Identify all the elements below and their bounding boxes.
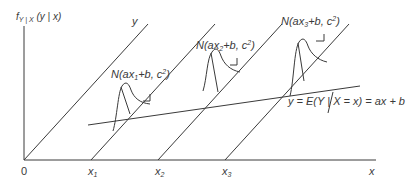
nl2-suffix: ) (251, 39, 255, 51)
regression-label: y = E(Y | X = x) = ax + b (288, 96, 405, 107)
normal-label-3: N(ax3+b, c2) (281, 15, 340, 28)
normal-curve-3 (290, 39, 327, 96)
y-axis-label: fY | X (y | x) (16, 12, 61, 23)
x-tick-3: x3 (222, 166, 231, 178)
diagonal-origin (24, 24, 148, 160)
x-tick-2: x2 (155, 166, 164, 178)
pointer-1 (143, 94, 150, 101)
nl3-prefix: N(ax (281, 15, 304, 27)
normal-label-1: N(ax1+b, c2) (111, 68, 170, 81)
nl2-mid: +b, c (223, 39, 247, 51)
curve1-center (121, 87, 130, 114)
pointer-3 (316, 34, 324, 41)
x-axis-label: x (369, 166, 375, 177)
y-axis-label-args: (y | x) (34, 11, 62, 22)
normal-label-2: N(ax2+b, c2) (196, 39, 255, 52)
normal-curve-1 (113, 83, 150, 131)
x-tick-1: x1 (88, 166, 97, 178)
nl2-prefix: N(ax (196, 39, 219, 51)
regression-diagram (0, 0, 408, 186)
nl1-prefix: N(ax (111, 68, 134, 80)
pointer-2 (230, 58, 237, 65)
normal-curve-2 (203, 49, 240, 91)
origin-label: 0 (21, 166, 27, 177)
x-tick-2-sub: 2 (161, 171, 165, 178)
nl1-suffix: ) (166, 68, 170, 80)
curve3-center (298, 43, 304, 81)
nl3-suffix: ) (336, 15, 340, 27)
curve2-center (211, 53, 218, 92)
x-tick-1-sub: 1 (94, 171, 98, 178)
nl1-mid: +b, c (138, 68, 162, 80)
nl3-mid: +b, c (308, 15, 332, 27)
x-tick-3-sub: 3 (228, 171, 232, 178)
diagonal-y-label: y (132, 16, 138, 27)
y-axis-label-sub: Y | X (19, 16, 34, 23)
